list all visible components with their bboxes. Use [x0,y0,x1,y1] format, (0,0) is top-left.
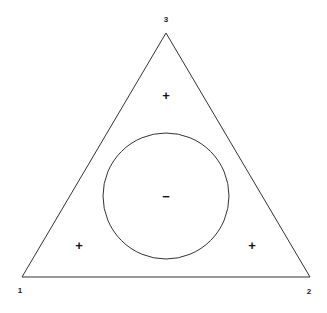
vertex-label-1: 1 [18,287,22,295]
region-sign-bottom-right: + [248,239,256,252]
figure-canvas: 3 1 2 + − + + [0,0,327,313]
region-sign-center: − [162,190,170,203]
triangle-outline [22,33,310,277]
vertex-label-3: 3 [164,16,168,24]
diagram-svg [0,0,327,313]
region-sign-top: + [162,89,170,102]
region-sign-bottom-left: + [75,239,83,252]
vertex-label-2: 2 [307,288,311,296]
